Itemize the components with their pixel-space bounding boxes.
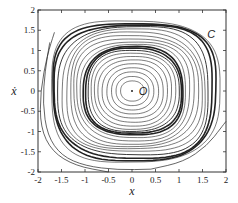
y-tick-label: 2 [31, 5, 36, 15]
x-tick-label: -2 [34, 175, 42, 185]
y-tick-label: 0.5 [24, 66, 36, 76]
y-tick-label: -2 [28, 167, 36, 177]
y-axis-label: ẋ [10, 84, 17, 98]
y-tick-label: -1.5 [21, 147, 36, 157]
x-tick-label: 2 [224, 175, 229, 185]
y-tick-label: 0 [31, 86, 36, 96]
annotation-c: C [207, 28, 215, 40]
closed-orbit [86, 48, 182, 133]
x-tick-label: 1.5 [197, 175, 209, 185]
x-tick-label: -1 [81, 175, 89, 185]
closed-orbit [54, 25, 212, 158]
x-tick-label: -0.5 [101, 175, 116, 185]
x-tick-label: 1 [177, 175, 182, 185]
x-tick-label: 0.5 [150, 175, 162, 185]
annotation-o: O [139, 85, 148, 97]
y-tick-label: -0.5 [21, 106, 36, 116]
y-tick-label: 1 [31, 46, 36, 56]
y-tick-label: 1.5 [24, 25, 36, 35]
equilibrium-point [131, 90, 133, 92]
orbit-layer [52, 21, 220, 162]
closed-orbit [74, 39, 194, 144]
y-tick-label: -1 [28, 127, 36, 137]
phase-portrait-chart: -2-1.5-1-0.500.511.52 -2-1.5-1-0.500.511… [0, 0, 238, 203]
x-axis-label: x [128, 184, 135, 198]
x-tick-label: -1.5 [54, 175, 69, 185]
